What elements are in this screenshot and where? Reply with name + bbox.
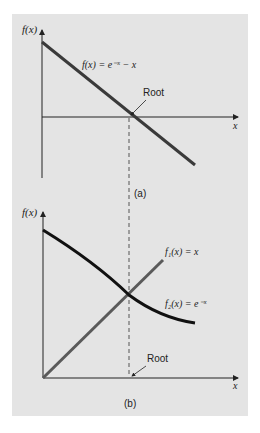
panel-a-root-label: Root — [143, 87, 164, 98]
panel-b-root-label: Root — [147, 353, 168, 364]
panel-b-root-pointer — [132, 366, 146, 376]
panel-b-x-axis-label: x — [232, 380, 238, 391]
panel-b-f2-label: f₂(x) = e⁻ˣ — [165, 298, 208, 310]
panel-b-y-axis-label: f(x) — [22, 206, 38, 219]
panel-a-caption: (a) — [134, 188, 146, 199]
panel-a-x-axis-label: x — [232, 120, 238, 131]
panel-a-y-axis-label: f(x) — [22, 23, 38, 36]
panel-a-root-pointer — [131, 100, 146, 115]
panel-a: f(x) x f(x) = e⁻ˣ − x Root (a) — [22, 23, 238, 199]
panel-b: f(x) x f₁(x) = x f₂(x) = e⁻ˣ Root (b) — [22, 206, 238, 409]
panel-b-f1-label: f₁(x) = x — [165, 246, 199, 258]
panel-b-caption: (b) — [124, 398, 136, 409]
root-finding-diagram: f(x) x f(x) = e⁻ˣ − x Root (a) f(x) x f₁… — [0, 0, 260, 433]
panel-b-f1-line — [43, 260, 163, 378]
panel-b-f2-curve — [43, 230, 195, 323]
panel-a-curve-label: f(x) = e⁻ˣ − x — [82, 59, 137, 71]
